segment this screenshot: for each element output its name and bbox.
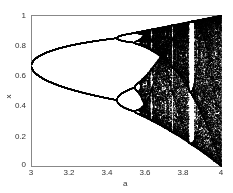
y-tick: 0.2 bbox=[0, 132, 26, 141]
y-tick: 0.6 bbox=[0, 71, 26, 80]
x-axis-label: a bbox=[123, 179, 127, 188]
y-axis-label: x bbox=[4, 95, 13, 99]
y-tick: 0.8 bbox=[0, 41, 26, 50]
x-tick: 3.8 bbox=[177, 168, 188, 177]
y-tick: 0 bbox=[0, 160, 26, 169]
bifurcation-plot bbox=[0, 0, 233, 193]
x-tick: 3 bbox=[29, 168, 33, 177]
x-tick: 3.2 bbox=[63, 168, 74, 177]
y-tick: 1 bbox=[0, 11, 26, 20]
x-tick: 3.4 bbox=[101, 168, 112, 177]
x-tick: 4 bbox=[219, 168, 223, 177]
x-tick: 3.6 bbox=[139, 168, 150, 177]
y-tick: 0.4 bbox=[0, 101, 26, 110]
